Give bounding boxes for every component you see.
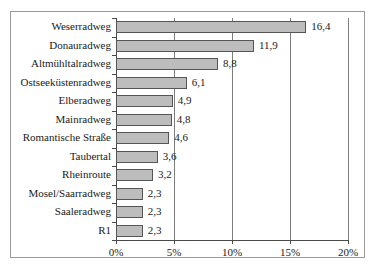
x-axis-tick <box>348 240 349 244</box>
x-axis-tick <box>116 240 117 244</box>
bar <box>116 21 306 33</box>
bar-value-label: 3,2 <box>158 166 172 183</box>
category-label: Taubertal <box>70 148 111 165</box>
bar-value-label: 11,9 <box>259 37 278 54</box>
bar <box>116 206 143 218</box>
bar-row: R12,3 <box>116 222 348 241</box>
bar <box>116 95 173 107</box>
bar-row: Mainradweg4,8 <box>116 111 348 130</box>
category-label: Mainradweg <box>55 111 111 128</box>
bar-chart-figure: Weserradweg16,4Donauradweg11,9Altmühltal… <box>0 0 377 278</box>
category-label: Donauradweg <box>49 37 111 54</box>
bar-row: Elberadweg4,9 <box>116 92 348 111</box>
category-axis-tick <box>112 129 116 130</box>
bar-value-label: 2,3 <box>148 203 162 220</box>
bar-value-label: 4,6 <box>174 129 188 146</box>
bar-row: Romantische Straße4,6 <box>116 129 348 148</box>
category-label: Mosel/Saarradweg <box>29 185 111 202</box>
bar <box>116 132 169 144</box>
x-axis-tick <box>232 240 233 244</box>
gridline-20pct <box>348 18 349 240</box>
bar-row: Rheinroute3,2 <box>116 166 348 185</box>
bar-row: Saaleradweg2,3 <box>116 203 348 222</box>
bar-row: Donauradweg11,9 <box>116 37 348 56</box>
bar-row: Altmühltalradweg8,8 <box>116 55 348 74</box>
x-axis-tick-label: 20% <box>328 245 368 259</box>
category-label: Romantische Straße <box>23 129 111 146</box>
category-axis-tick <box>112 166 116 167</box>
bar <box>116 77 187 89</box>
category-label: Saaleradweg <box>55 203 111 220</box>
category-axis-tick <box>112 203 116 204</box>
bar-value-label: 4,8 <box>177 111 191 128</box>
category-axis-tick <box>112 222 116 223</box>
bar <box>116 225 143 237</box>
category-axis-tick <box>112 74 116 75</box>
x-axis-tick-label: 0% <box>96 245 136 259</box>
bar-row: Mosel/Saarradweg2,3 <box>116 185 348 204</box>
bar-value-label: 8,8 <box>223 55 237 72</box>
bar-value-label: 16,4 <box>311 18 330 35</box>
category-label: Altmühltalradweg <box>31 55 111 72</box>
bar-value-label: 2,3 <box>148 185 162 202</box>
category-label: Rheinroute <box>62 166 111 183</box>
category-label: R1 <box>98 222 111 239</box>
category-axis-tick <box>112 111 116 112</box>
category-axis-tick <box>112 18 116 19</box>
category-axis-tick <box>112 37 116 38</box>
category-label: Weserradweg <box>51 18 111 35</box>
bar-row: Ostseeküstenradweg6,1 <box>116 74 348 93</box>
category-axis-tick <box>112 92 116 93</box>
bar-value-label: 3,6 <box>163 148 177 165</box>
category-axis-tick <box>112 185 116 186</box>
bar <box>116 151 158 163</box>
bar <box>116 169 153 181</box>
category-axis-tick <box>112 55 116 56</box>
x-axis-tick-label: 15% <box>270 245 310 259</box>
category-axis-tick <box>112 148 116 149</box>
x-axis-tick <box>174 240 175 244</box>
bar <box>116 188 143 200</box>
plot-area: Weserradweg16,4Donauradweg11,9Altmühltal… <box>116 18 348 240</box>
bar-value-label: 4,9 <box>178 92 192 109</box>
category-label: Ostseeküstenradweg <box>21 74 111 91</box>
bar-value-label: 6,1 <box>192 74 206 91</box>
bar-row: Taubertal3,6 <box>116 148 348 167</box>
bar <box>116 114 172 126</box>
x-axis-tick-label: 5% <box>154 245 194 259</box>
bar-value-label: 2,3 <box>148 222 162 239</box>
bar-row: Weserradweg16,4 <box>116 18 348 37</box>
bar <box>116 58 218 70</box>
x-axis-tick <box>290 240 291 244</box>
bar <box>116 40 254 52</box>
x-axis-tick-label: 10% <box>212 245 252 259</box>
category-label: Elberadweg <box>58 92 111 109</box>
